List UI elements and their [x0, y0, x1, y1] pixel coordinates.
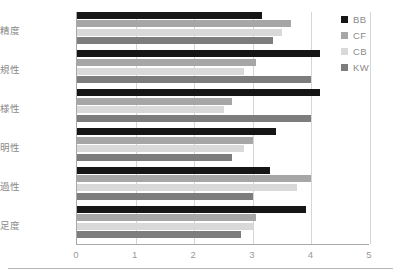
legend-label: CB [353, 46, 367, 57]
bar-kw-0 [77, 37, 273, 44]
bar-cb-3 [77, 145, 244, 152]
bar-group [77, 51, 369, 90]
bar-cf-5 [77, 214, 256, 221]
bar-kw-3 [77, 154, 232, 161]
category-label: 説明性 [0, 142, 20, 153]
category-label: 透過性 [0, 181, 20, 192]
bar-cb-0 [77, 29, 282, 36]
bar-group [77, 12, 369, 51]
bar-kw-1 [77, 76, 311, 83]
bar-group [77, 90, 369, 129]
x-tick-2: 2 [178, 249, 208, 260]
bar-kw-5 [77, 231, 241, 238]
x-tick-0: 0 [61, 249, 91, 260]
bar-cf-2 [77, 98, 232, 105]
x-tick-5: 5 [354, 249, 384, 260]
bar-cf-1 [77, 59, 256, 66]
legend-label: BB [353, 14, 366, 25]
legend-swatch-cb-icon [341, 48, 348, 55]
x-tick-1: 1 [120, 249, 150, 260]
legend-item-cb[interactable]: CB [341, 44, 397, 58]
bar-cb-1 [77, 68, 244, 75]
legend-swatch-kw-icon [341, 64, 348, 71]
legend-label: CF [353, 30, 366, 41]
legend-item-bb[interactable]: BB [341, 12, 397, 26]
bar-bb-4 [77, 167, 270, 174]
category-label: 総合満足度 [0, 220, 20, 231]
bar-cf-0 [77, 20, 291, 27]
category-label: 推薦多様性 [0, 103, 20, 114]
legend-swatch-bb-icon [341, 16, 348, 23]
bar-kw-2 [77, 115, 311, 122]
bar-bb-5 [77, 206, 306, 213]
bar-cf-4 [77, 175, 311, 182]
bar-bb-3 [77, 128, 276, 135]
bar-chart: 推薦精度推薦新規性推薦多様性説明性透過性総合満足度 012345 BBCFCBK… [0, 0, 401, 279]
legend-item-kw[interactable]: KW [341, 60, 397, 74]
bottom-divider [8, 268, 393, 269]
bar-group [77, 167, 369, 206]
bar-bb-0 [77, 12, 262, 19]
bar-bb-2 [77, 89, 320, 96]
plot-area [76, 12, 369, 245]
bar-cf-3 [77, 137, 253, 144]
bar-kw-4 [77, 193, 253, 200]
bar-cb-5 [77, 223, 253, 230]
bar-cb-4 [77, 184, 297, 191]
legend-swatch-cf-icon [341, 32, 348, 39]
legend-item-cf[interactable]: CF [341, 28, 397, 42]
x-tick-3: 3 [237, 249, 267, 260]
category-label: 推薦精度 [0, 25, 20, 36]
bar-group [77, 206, 369, 245]
bar-group [77, 129, 369, 168]
chart-legend: BBCFCBKW [341, 12, 397, 76]
category-label: 推薦新規性 [0, 64, 20, 75]
legend-label: KW [353, 62, 369, 73]
bar-bb-1 [77, 50, 320, 57]
x-tick-4: 4 [295, 249, 325, 260]
bar-cb-2 [77, 106, 224, 113]
